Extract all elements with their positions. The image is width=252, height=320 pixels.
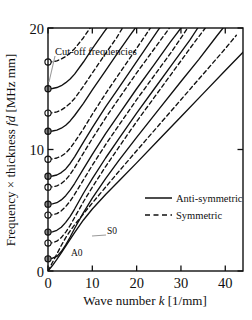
x-tick-label-40: 40: [218, 275, 233, 291]
legend-label-symmetric: Symmetric: [176, 210, 222, 221]
x-tick-label-0: 0: [44, 275, 51, 291]
dispersion-chart: 01020304001020 Cut-off frequencies S0 A0…: [0, 0, 252, 320]
x-tick-label-20: 20: [129, 275, 144, 291]
x-tick-label-10: 10: [85, 275, 100, 291]
x-tick-label-30: 30: [174, 275, 189, 291]
y-tick-label-20: 20: [30, 21, 45, 37]
x-axis-title: Wave number k [1/mm]: [83, 293, 207, 308]
y-axis-title-pre: Frequency × thickness: [3, 126, 18, 246]
legend-label-anti-symmetric: Anti-symmetric: [176, 193, 243, 204]
y-axis-title-post: [MHz mm]: [3, 54, 18, 116]
x-axis-title-pre: Wave number: [83, 293, 158, 308]
mode-label-s0: S0: [107, 226, 117, 236]
y-axis-title: Frequency × thickness fd [MHz mm]: [3, 54, 18, 247]
y-tick-label-10: 10: [30, 142, 45, 158]
x-axis-title-post: [1/mm]: [165, 293, 207, 308]
y-tick-label-0: 0: [37, 264, 44, 280]
y-axis-title-italic: fd: [3, 115, 18, 126]
figure-root: 01020304001020 Cut-off frequencies S0 A0…: [0, 0, 252, 320]
mode-label-a0: A0: [71, 248, 83, 258]
cutoff-frequencies-annotation: Cut-off frequencies: [55, 46, 137, 57]
